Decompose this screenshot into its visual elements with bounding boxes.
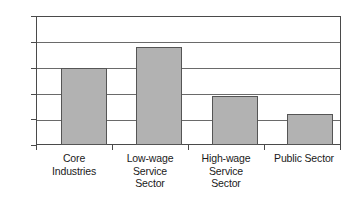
x-label-public-sector: Public Sector (262, 152, 346, 165)
bar-core-industries (61, 68, 107, 145)
x-tick-mark-1 (112, 145, 113, 150)
bar-low-wage-service (136, 47, 182, 145)
x-tick-mark-2 (188, 145, 189, 150)
x-label-line: Industries (36, 165, 112, 178)
bar-public-sector (287, 114, 333, 145)
x-label-line: Service (188, 165, 264, 178)
x-label-core-industries: Core Industries (36, 152, 112, 177)
bars-layer (36, 16, 341, 145)
x-label-line: Public Sector (262, 152, 346, 165)
x-label-line: High-wage (188, 152, 264, 165)
x-label-line: Low-wage (112, 152, 188, 165)
bar-high-wage-service (212, 96, 258, 145)
x-label-high-wage-service: High-wage Service Sector (188, 152, 264, 190)
x-label-low-wage-service: Low-wage Service Sector (112, 152, 188, 190)
x-tick-mark-4 (340, 145, 341, 150)
x-tick-mark-0 (36, 145, 37, 150)
bar-chart: 50 40 30 20 10 0 Core Industries Low-wag… (0, 0, 358, 198)
x-tick-mark-3 (264, 145, 265, 150)
x-label-line: Core (36, 152, 112, 165)
x-label-line: Service (112, 165, 188, 178)
x-label-line: Sector (112, 177, 188, 190)
y-axis: 50 40 30 20 10 0 (0, 0, 36, 198)
x-label-line: Sector (188, 177, 264, 190)
